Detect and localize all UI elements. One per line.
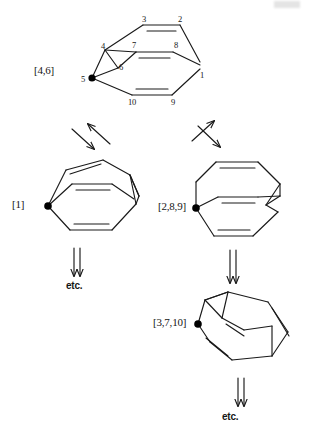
atom-number-4: 4: [101, 41, 105, 51]
equilibrium-arrow-vertical-right-1: [230, 250, 236, 283]
atom-number-8: 8: [174, 40, 178, 50]
structure-label-3-7-10: [3,7,10]: [153, 316, 186, 328]
structure-3-7-10: [194, 292, 289, 360]
scan-artifact: [274, 1, 300, 8]
etc-label-left: etc.: [66, 280, 82, 291]
structure-2-8-9: [192, 162, 280, 236]
structure-4-6: [88, 25, 200, 95]
equilibrium-arrow-left: [72, 124, 110, 149]
atom-number-9: 9: [171, 97, 175, 107]
structure-label-2-8-9: [2,8,9]: [158, 200, 186, 212]
atom-number-5: 5: [81, 74, 85, 84]
equilibrium-arrow-right: [192, 121, 220, 147]
equilibrium-arrow-vertical-right-2: [238, 378, 244, 406]
atom-number-10: 10: [128, 97, 136, 107]
structure-label-1: [1]: [12, 198, 24, 210]
structure-1: [44, 160, 139, 230]
atom-number-7: 7: [132, 40, 136, 50]
structure-label-4-6: [4,6]: [34, 64, 54, 76]
atom-number-1: 1: [200, 70, 204, 80]
atom-number-3: 3: [142, 14, 146, 24]
etc-label-bottom: etc.: [222, 411, 238, 422]
atom-number-2: 2: [178, 14, 182, 24]
atom-number-6: 6: [119, 62, 123, 72]
equilibrium-arrow-vertical-left: [74, 248, 80, 276]
